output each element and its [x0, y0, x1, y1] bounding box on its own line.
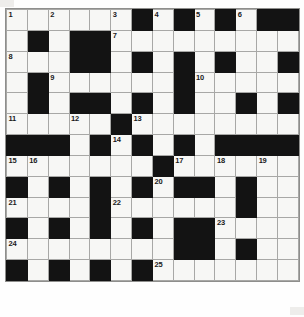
crossword-cell[interactable]	[111, 218, 132, 239]
crossword-cell[interactable]: 12	[69, 114, 90, 135]
crossword-cell[interactable]	[215, 93, 236, 114]
crossword-cell[interactable]: 6	[236, 10, 257, 31]
crossword-cell[interactable]	[69, 197, 90, 218]
crossword-cell[interactable]	[257, 260, 278, 281]
crossword-cell[interactable]	[236, 30, 257, 51]
crossword-cell[interactable]	[90, 155, 111, 176]
crossword-cell[interactable]	[277, 176, 298, 197]
crossword-cell[interactable]	[215, 260, 236, 281]
crossword-cell[interactable]	[173, 197, 194, 218]
crossword-cell[interactable]	[48, 51, 69, 72]
crossword-cell[interactable]: 17	[173, 155, 194, 176]
crossword-cell[interactable]	[27, 114, 48, 135]
crossword-cell[interactable]: 7	[111, 30, 132, 51]
crossword-cell[interactable]	[48, 155, 69, 176]
crossword-cell[interactable]	[48, 197, 69, 218]
crossword-cell[interactable]: 5	[194, 10, 215, 31]
crossword-cell[interactable]	[194, 135, 215, 156]
crossword-cell[interactable]	[215, 176, 236, 197]
crossword-cell[interactable]: 14	[111, 135, 132, 156]
crossword-cell[interactable]: 25	[152, 260, 173, 281]
crossword-cell[interactable]	[194, 114, 215, 135]
crossword-cell[interactable]	[257, 197, 278, 218]
crossword-cell[interactable]	[69, 72, 90, 93]
crossword-cell[interactable]: 4	[152, 10, 173, 31]
crossword-cell[interactable]	[236, 155, 257, 176]
crossword-cell[interactable]	[194, 51, 215, 72]
crossword-cell[interactable]: 1	[7, 10, 28, 31]
crossword-cell[interactable]	[48, 239, 69, 260]
crossword-cell[interactable]	[215, 197, 236, 218]
crossword-cell[interactable]	[257, 239, 278, 260]
crossword-grid[interactable]: 1234567891011121314151617181920212223242…	[6, 9, 299, 281]
crossword-cell[interactable]	[257, 114, 278, 135]
crossword-cell[interactable]: 23	[215, 218, 236, 239]
crossword-cell[interactable]	[152, 30, 173, 51]
crossword-cell[interactable]: 24	[7, 239, 28, 260]
crossword-cell[interactable]	[27, 260, 48, 281]
crossword-cell[interactable]	[27, 51, 48, 72]
crossword-cell[interactable]	[48, 93, 69, 114]
crossword-cell[interactable]	[132, 72, 153, 93]
crossword-cell[interactable]	[257, 51, 278, 72]
crossword-cell[interactable]	[173, 30, 194, 51]
crossword-cell[interactable]	[277, 72, 298, 93]
crossword-cell[interactable]	[277, 260, 298, 281]
crossword-cell[interactable]	[236, 114, 257, 135]
crossword-cell[interactable]	[7, 93, 28, 114]
crossword-cell[interactable]	[90, 114, 111, 135]
crossword-cell[interactable]: 19	[257, 155, 278, 176]
crossword-cell[interactable]	[132, 30, 153, 51]
crossword-cell[interactable]	[7, 30, 28, 51]
crossword-cell[interactable]	[173, 114, 194, 135]
crossword-cell[interactable]	[111, 176, 132, 197]
crossword-cell[interactable]	[48, 30, 69, 51]
crossword-cell[interactable]	[257, 93, 278, 114]
crossword-cell[interactable]	[111, 72, 132, 93]
crossword-cell[interactable]	[152, 93, 173, 114]
crossword-cell[interactable]: 9	[48, 72, 69, 93]
crossword-cell[interactable]	[27, 176, 48, 197]
crossword-cell[interactable]	[173, 260, 194, 281]
crossword-cell[interactable]	[152, 72, 173, 93]
crossword-cell[interactable]	[111, 239, 132, 260]
crossword-cell[interactable]	[7, 72, 28, 93]
crossword-cell[interactable]	[194, 93, 215, 114]
crossword-cell[interactable]	[69, 239, 90, 260]
crossword-cell[interactable]	[111, 51, 132, 72]
crossword-cell[interactable]	[111, 260, 132, 281]
crossword-cell[interactable]: 20	[152, 176, 173, 197]
crossword-cell[interactable]	[257, 218, 278, 239]
crossword-cell[interactable]	[69, 10, 90, 31]
crossword-cell[interactable]	[48, 114, 69, 135]
crossword-cell[interactable]	[277, 197, 298, 218]
crossword-cell[interactable]	[277, 30, 298, 51]
crossword-cell[interactable]	[277, 239, 298, 260]
crossword-cell[interactable]: 21	[7, 197, 28, 218]
crossword-cell[interactable]	[90, 239, 111, 260]
crossword-cell[interactable]	[277, 155, 298, 176]
crossword-cell[interactable]	[27, 10, 48, 31]
crossword-cell[interactable]	[132, 155, 153, 176]
crossword-cell[interactable]: 22	[111, 197, 132, 218]
crossword-cell[interactable]: 3	[111, 10, 132, 31]
crossword-cell[interactable]	[152, 51, 173, 72]
crossword-cell[interactable]: 15	[7, 155, 28, 176]
crossword-cell[interactable]	[194, 30, 215, 51]
crossword-cell[interactable]	[236, 260, 257, 281]
crossword-cell[interactable]	[257, 72, 278, 93]
crossword-cell[interactable]	[69, 260, 90, 281]
crossword-cell[interactable]: 13	[132, 114, 153, 135]
crossword-cell[interactable]: 11	[7, 114, 28, 135]
crossword-cell[interactable]	[277, 114, 298, 135]
crossword-cell[interactable]	[194, 260, 215, 281]
crossword-cell[interactable]	[236, 72, 257, 93]
crossword-cell[interactable]	[69, 176, 90, 197]
crossword-cell[interactable]	[90, 10, 111, 31]
crossword-cell[interactable]	[27, 239, 48, 260]
crossword-cell[interactable]	[90, 72, 111, 93]
crossword-cell[interactable]	[69, 135, 90, 156]
crossword-cell[interactable]	[27, 197, 48, 218]
crossword-cell[interactable]: 8	[7, 51, 28, 72]
crossword-cell[interactable]	[152, 135, 173, 156]
